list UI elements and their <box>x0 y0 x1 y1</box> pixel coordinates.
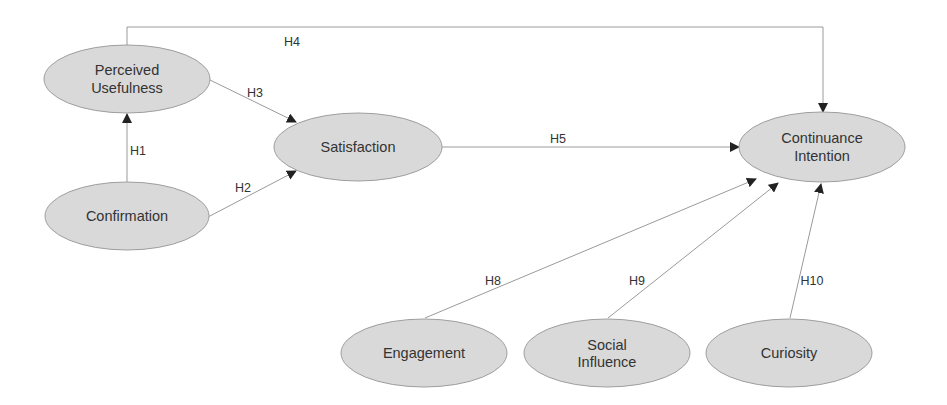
node-label-line2: Intention <box>794 148 850 164</box>
node-label-line1: Continuance <box>781 130 862 146</box>
edge-label-h2: H2 <box>235 181 251 195</box>
node-continuance-intention: Continuance Intention <box>739 112 905 182</box>
edge-label-h1: H1 <box>130 144 146 158</box>
edge-h2 <box>208 171 296 217</box>
node-label: Satisfaction <box>321 139 396 155</box>
node-satisfaction: Satisfaction <box>274 113 442 181</box>
node-label: Engagement <box>383 345 465 361</box>
edge-label-h3: H3 <box>247 86 263 100</box>
node-label-line2: Influence <box>578 354 637 370</box>
edge-label-h8: H8 <box>485 274 501 288</box>
node-engagement: Engagement <box>341 319 507 387</box>
edge-h8 <box>425 179 756 318</box>
node-social-influence: Social Influence <box>524 319 690 387</box>
node-label: Confirmation <box>86 208 168 224</box>
edge-h10 <box>790 184 821 318</box>
node-label: Curiosity <box>761 345 818 361</box>
research-model-diagram: H1 H2 H3 H4 H5 H8 H9 H10 Perceived Usefu… <box>0 0 947 405</box>
node-confirmation: Confirmation <box>45 182 209 250</box>
node-label-line1: Perceived <box>95 62 159 78</box>
edge-label-h5: H5 <box>550 132 566 146</box>
node-perceived-usefulness: Perceived Usefulness <box>44 45 210 113</box>
edge-label-h4: H4 <box>284 35 300 49</box>
node-curiosity: Curiosity <box>706 319 872 387</box>
edge-h4 <box>127 27 823 112</box>
edge-h9 <box>608 183 778 318</box>
edge-labels: H1 H2 H3 H4 H5 H8 H9 H10 <box>130 35 824 288</box>
edge-label-h9: H9 <box>629 274 645 288</box>
edges <box>127 27 823 318</box>
edge-label-h10: H10 <box>801 274 824 288</box>
node-label-line1: Social <box>587 337 627 353</box>
node-label-line2: Usefulness <box>91 80 163 96</box>
